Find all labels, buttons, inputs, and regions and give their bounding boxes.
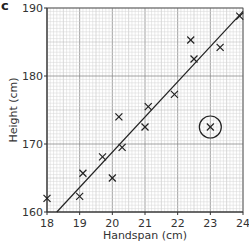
- axes: [44, 8, 243, 215]
- svg-text:19: 19: [73, 217, 87, 230]
- svg-text:Handspan (cm): Handspan (cm): [103, 229, 187, 242]
- svg-text:24: 24: [236, 217, 249, 230]
- svg-text:160: 160: [22, 206, 43, 219]
- data-points: [44, 13, 244, 202]
- svg-text:23: 23: [203, 217, 217, 230]
- scatter-chart: 18192021222324160170180190Handspan (cm)H…: [0, 0, 249, 243]
- svg-text:180: 180: [22, 70, 43, 83]
- svg-text:170: 170: [22, 138, 43, 151]
- axis-labels: 18192021222324160170180190Handspan (cm)H…: [7, 2, 249, 242]
- svg-text:Height (cm): Height (cm): [7, 77, 20, 142]
- svg-text:190: 190: [22, 2, 43, 15]
- line-of-best-fit: [57, 11, 243, 212]
